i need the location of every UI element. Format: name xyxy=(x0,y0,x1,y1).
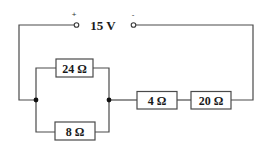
resistor-4-ohm: 4 Ω xyxy=(137,92,177,110)
positive-terminal-symbol: + xyxy=(72,10,77,19)
resistor-20-ohm-label: 20 Ω xyxy=(199,94,224,108)
wires xyxy=(19,25,253,132)
resistor-20-ohm: 20 Ω xyxy=(191,92,231,110)
positive-terminal-icon xyxy=(74,23,79,28)
wire-parallel-left xyxy=(36,68,56,132)
circuit-diagram: + 15 V - 24 Ω 8 Ω 4 Ω 20 Ω xyxy=(0,0,265,151)
negative-terminal-icon xyxy=(131,23,136,28)
junction-right-icon xyxy=(107,98,112,103)
negative-terminal-symbol: - xyxy=(132,10,135,19)
voltage-source: + 15 V - xyxy=(72,10,136,33)
junction-left-icon xyxy=(34,98,39,103)
source-voltage-label: 15 V xyxy=(90,18,116,33)
resistor-24-ohm-label: 24 Ω xyxy=(62,62,87,76)
resistor-4-ohm-label: 4 Ω xyxy=(148,94,167,108)
wire-negative-lead xyxy=(136,25,253,100)
resistor-8-ohm: 8 Ω xyxy=(55,122,95,140)
resistor-24-ohm: 24 Ω xyxy=(56,59,93,77)
resistor-8-ohm-label: 8 Ω xyxy=(66,125,85,139)
